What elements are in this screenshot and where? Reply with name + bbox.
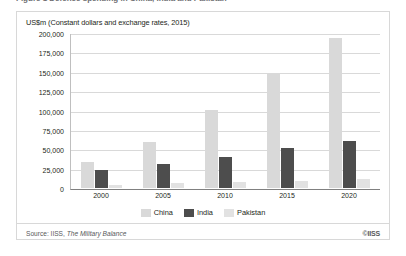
- x-tick-label-2005: 2005: [132, 192, 194, 199]
- legend-item-china[interactable]: China: [141, 208, 173, 217]
- bar-groups: [71, 34, 380, 188]
- units-caption: US$m (Constant dollars and exchange rate…: [26, 18, 190, 27]
- bar-pakistan-2000[interactable]: [109, 185, 122, 188]
- axis-baseline: [71, 189, 380, 190]
- figure-title-clipped: Figure 1 Defence spending in China, Indi…: [16, 0, 390, 3]
- bar-china-2000[interactable]: [81, 162, 94, 188]
- y-tick-label: 0: [60, 186, 64, 193]
- copyright-label: ©IISS: [363, 230, 380, 237]
- legend-item-pakistan[interactable]: Pakistan: [224, 208, 265, 217]
- chart-figure: US$m (Constant dollars and exchange rate…: [16, 11, 390, 240]
- bar-india-2020[interactable]: [343, 141, 356, 188]
- bar-india-2010[interactable]: [219, 157, 232, 188]
- y-tick-label: 100,000: [39, 108, 64, 115]
- legend-swatch-pakistan-icon: [224, 209, 234, 217]
- bar-pakistan-2005[interactable]: [171, 183, 184, 188]
- bar-china-2005[interactable]: [143, 142, 156, 188]
- x-tick-label-2020: 2020: [318, 192, 380, 199]
- bar-india-2005[interactable]: [157, 164, 170, 188]
- legend-item-india[interactable]: India: [184, 208, 213, 217]
- figure-footer: Source: IISS, The Military Balance ©IISS: [26, 227, 380, 239]
- bar-group-2000: [81, 34, 122, 188]
- x-tick-label-2010: 2010: [194, 192, 256, 199]
- bar-pakistan-2010[interactable]: [233, 182, 246, 188]
- legend-label-pakistan: Pakistan: [237, 208, 265, 217]
- plot-area: 025,00050,00075,000100,000125,000150,000…: [26, 34, 380, 204]
- bar-india-2015[interactable]: [281, 148, 294, 188]
- y-tick-label: 50,000: [43, 147, 64, 154]
- y-tick-label: 175,000: [39, 50, 64, 57]
- bar-group-2010: [205, 34, 246, 188]
- bar-china-2010[interactable]: [205, 110, 218, 188]
- bar-india-2000[interactable]: [95, 170, 108, 188]
- source-prefix: Source: IISS,: [26, 230, 67, 237]
- source-note: Source: IISS, The Military Balance: [26, 230, 126, 237]
- y-tick-label: 25,000: [43, 166, 64, 173]
- legend-label-india: India: [197, 208, 213, 217]
- footer-divider: [17, 223, 389, 224]
- chart-legend: ChinaIndiaPakistan: [17, 208, 389, 217]
- y-tick-label: 125,000: [39, 89, 64, 96]
- plot-canvas: [70, 34, 380, 190]
- bar-china-2020[interactable]: [329, 38, 342, 188]
- x-tick-label-2000: 2000: [70, 192, 132, 199]
- bar-pakistan-2020[interactable]: [357, 179, 370, 188]
- y-axis: 025,00050,00075,000100,000125,000150,000…: [26, 34, 68, 190]
- bar-group-2005: [143, 34, 184, 188]
- y-tick-label: 75,000: [43, 127, 64, 134]
- bar-group-2020: [329, 34, 370, 188]
- legend-swatch-china-icon: [141, 209, 151, 217]
- y-tick-label: 150,000: [39, 69, 64, 76]
- x-tick-label-2015: 2015: [256, 192, 318, 199]
- x-axis: 20002005201020152020: [70, 192, 380, 199]
- bar-china-2015[interactable]: [267, 74, 280, 188]
- legend-label-china: China: [154, 208, 173, 217]
- y-tick-label: 200,000: [39, 31, 64, 38]
- bar-group-2015: [267, 34, 308, 188]
- bar-pakistan-2015[interactable]: [295, 181, 308, 188]
- legend-swatch-india-icon: [184, 209, 194, 217]
- source-publication: The Military Balance: [67, 230, 127, 237]
